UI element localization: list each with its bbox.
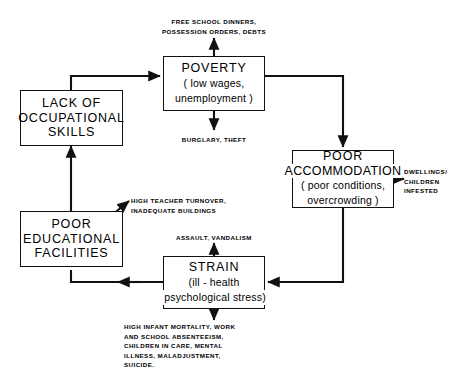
annotation-education-outcomes-line1: HIGH TEACHER TURNOVER, (131, 196, 261, 206)
node-education-title-line2: EDUCATIONAL (23, 232, 120, 247)
annotation-poverty-outcomes-line2: POSSESSION ORDERS, DEBTS (139, 27, 289, 37)
annotation-strain-outcomes: HIGH INFANT MORTALITY, WORK AND SCHOOL A… (124, 322, 304, 370)
annotation-strain-outcomes-line4: ILLNESS, MALADJUSTMENT, (124, 351, 304, 361)
annotation-accommodation-outcomes-line1: DWELLINGS/ (404, 167, 460, 177)
node-lack-of-occupational-skills[interactable]: LACK OF OCCUPATIONAL SKILLS (20, 90, 123, 146)
annotation-strain-crime: ASSAULT, VANDALISM (156, 233, 272, 243)
annotation-education-outcomes-line2: INADEQUATE BUILDINGS (131, 206, 261, 216)
node-accommodation-title-line2: ACCOMMODATION (284, 164, 403, 178)
node-lack-title-line3: SKILLS (48, 125, 95, 140)
edge-strain-to-education (71, 270, 163, 282)
annotation-strain-outcomes-line3: CHILDREN IN CARE, MENTAL (124, 341, 304, 351)
annotation-poverty-outcomes-line1: FREE SCHOOL DINNERS, (139, 17, 289, 27)
annotation-accommodation-outcomes-line3: INFESTED (404, 186, 460, 196)
annotation-accommodation-outcomes: DWELLINGS/ CHILDREN INFESTED (404, 167, 460, 196)
node-poverty[interactable]: POVERTY ( low wages, unemployment ) (163, 56, 265, 111)
node-poor-educational-facilities[interactable]: POOR EDUCATIONAL FACILITIES (20, 211, 123, 267)
node-poverty-title: POVERTY (181, 61, 246, 76)
annotation-poverty-crime: BURGLARY, THEFT (159, 135, 269, 145)
node-strain-subtitle-line1: (ill - health (188, 275, 239, 290)
annotation-accommodation-outcomes-line2: CHILDREN (404, 177, 460, 187)
node-accommodation-subtitle-line1: ( poor conditions, (301, 178, 385, 193)
annotation-strain-outcomes-line5: SUICIDE. (124, 360, 304, 370)
node-lack-title-line1: LACK OF (42, 96, 101, 111)
node-education-title-line3: FACILITIES (35, 246, 109, 261)
edge-accommodation-to-strain (268, 208, 343, 282)
node-accommodation-subtitle-line2: overcrowding ) (307, 193, 379, 208)
node-strain[interactable]: STRAIN (ill - health psychological stres… (163, 256, 265, 309)
node-strain-subtitle-line2: psychological stress) (163, 290, 267, 305)
annotation-education-outcomes: HIGH TEACHER TURNOVER, INADEQUATE BUILDI… (131, 196, 261, 215)
node-lack-title-line2: OCCUPATIONAL (18, 111, 124, 126)
node-strain-title: STRAIN (189, 260, 240, 275)
flow-diagram: POVERTY ( low wages, unemployment ) LACK… (0, 0, 460, 372)
edge-skills-to-poverty (71, 76, 160, 90)
node-accommodation-title-line1: POOR (323, 149, 363, 164)
edge-poverty-to-accommodation (265, 76, 343, 147)
node-poverty-subtitle-line1: ( low wages, (184, 76, 245, 91)
annotation-strain-outcomes-line1: HIGH INFANT MORTALITY, WORK (124, 322, 304, 332)
node-poverty-subtitle-line2: unemployment ) (175, 91, 253, 106)
node-education-title-line1: POOR (51, 217, 91, 232)
annotation-strain-crime-line1: ASSAULT, VANDALISM (156, 233, 272, 243)
node-poor-accommodation[interactable]: POOR ACCOMMODATION ( poor conditions, ov… (292, 150, 394, 208)
annotation-strain-outcomes-line2: AND SCHOOL ABSENTEEISM, (124, 332, 304, 342)
annotation-poverty-crime-line1: BURGLARY, THEFT (159, 135, 269, 145)
annotation-poverty-outcomes: FREE SCHOOL DINNERS, POSSESSION ORDERS, … (139, 17, 289, 36)
